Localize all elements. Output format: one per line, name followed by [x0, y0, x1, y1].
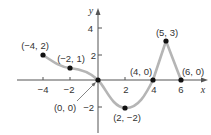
y-tick-label-neg2: −2	[83, 102, 94, 113]
point-6-0	[178, 77, 183, 82]
y-axis-label: y	[88, 5, 94, 16]
label-point-0-0: (0, 0)	[54, 102, 76, 113]
label-point-4-0: (4, 0)	[130, 66, 152, 77]
x-axis-arrow-icon	[201, 78, 208, 83]
point-neg4-2	[40, 52, 45, 57]
y-axis-arrow-icon	[96, 8, 101, 15]
y-tick-label-4: 4	[88, 23, 93, 34]
x-axis-label: x	[200, 84, 206, 95]
x-tick-label-neg4: −4	[38, 84, 49, 95]
y-ticks	[98, 28, 102, 107]
x-tick-label-neg2: −2	[64, 84, 75, 95]
x-tick-label-4: 4	[151, 84, 156, 95]
function-curve	[43, 41, 181, 108]
y-tick-label-2: 2	[91, 50, 96, 61]
point-5-3	[163, 38, 168, 43]
point-0-0	[95, 77, 100, 82]
label-point-6-0: (6, 0)	[182, 66, 204, 77]
point-2-neg2	[122, 105, 127, 110]
function-graph: −4 −2 2 4 6 4 2 −2 x y (−4, 2) (−2, 1) (…	[0, 0, 211, 135]
label-point-5-3: (5, 3)	[156, 27, 178, 38]
label-point-neg4-2: (−4, 2)	[21, 40, 49, 51]
label-point-2-neg2: (2, −2)	[113, 112, 141, 123]
point-4-0	[150, 77, 155, 82]
x-tick-label-6: 6	[178, 84, 183, 95]
point-neg2-1	[67, 65, 72, 70]
origin-pointer-line	[77, 84, 94, 101]
x-tick-label-2: 2	[123, 84, 128, 95]
label-point-neg2-1: (−2, 1)	[57, 53, 85, 64]
